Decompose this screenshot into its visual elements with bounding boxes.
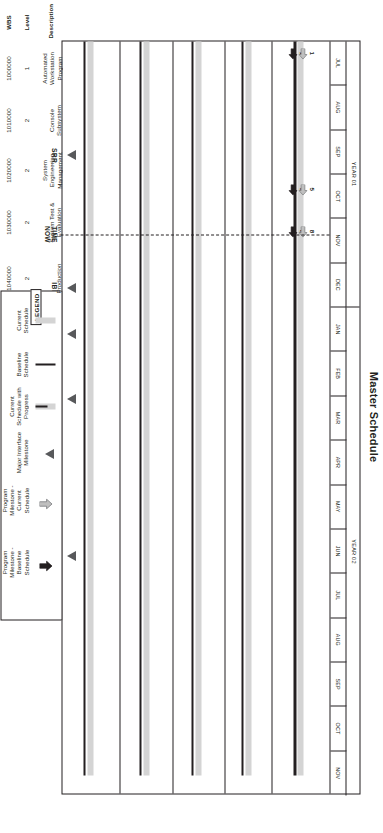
month-header-sep-14: SEP	[330, 662, 346, 706]
year-header-2: YEAR 02	[346, 307, 359, 795]
bar-current-1040000	[87, 41, 93, 775]
milestone-triangle-srr	[67, 149, 76, 159]
month-header-sep-2: SEP	[330, 130, 346, 174]
wbs-value-1000000: 1000000	[5, 52, 12, 84]
wbs-value-1010000: 1010000	[5, 104, 12, 136]
legend-label-1: Baseline Schedule	[15, 341, 29, 387]
month-header-oct-15: OCT	[330, 706, 346, 750]
baseline-schedule-swatch	[35, 363, 55, 365]
milestone-triangle-ssr	[67, 550, 76, 560]
wbs-value-1040000: 1040000	[5, 262, 12, 294]
program-milestone-baseline-icon	[36, 559, 54, 572]
gantt-rows: 115588 SRRIBRPDREPASSR TIME NOW	[62, 41, 330, 793]
month-header-jan-6: JAN	[330, 307, 346, 351]
wbs-level-1040000: 2	[23, 262, 30, 294]
wbs-value-1030000: 1030000	[5, 206, 12, 238]
month-header-aug-13: AUG	[330, 618, 346, 662]
bar-current-1000000	[297, 41, 303, 775]
program-milestone-baseline-8	[288, 226, 297, 237]
bar-baseline-1030000	[139, 41, 141, 775]
month-header-aug-1: AUG	[330, 85, 346, 129]
wbs-description-1000000: Automated Workstation Program	[40, 46, 62, 90]
month-header-apr-9: APR	[330, 440, 346, 484]
legend-label-0: Current Schedule	[15, 297, 29, 343]
bar-baseline-1000000	[293, 41, 295, 775]
wbs-description-1030000: System Test & Evaluation	[47, 200, 62, 244]
bar-baseline-1010000	[241, 41, 243, 775]
bar-current-1010000	[245, 41, 251, 775]
page-title: Master Schedule	[367, 0, 379, 833]
year-header-1: YEAR 01	[346, 41, 359, 307]
legend-box: LEGEND Current ScheduleBaseline Schedule…	[0, 290, 62, 620]
wbs-level-1000000: 1	[23, 52, 30, 84]
program-milestone-current-icon	[36, 497, 54, 510]
month-header-nov-4: NOV	[330, 218, 346, 262]
program-milestone-baseline-1	[288, 48, 297, 59]
milestone-triangle-epa	[67, 393, 76, 403]
month-header-may-10: MAY	[330, 485, 346, 529]
master-schedule-canvas: Master Schedule YEAR 01YEAR 02 JULAUGSEP…	[0, 0, 383, 833]
program-milestone-number-current-8: 8	[308, 229, 315, 232]
major-interface-milestone-icon	[44, 449, 54, 458]
wbs-header-description: Description	[47, 6, 54, 38]
bar-baseline-1040000	[83, 41, 85, 775]
program-milestone-current-8	[298, 226, 307, 237]
month-header-feb-7: FEB	[330, 351, 346, 395]
gantt-plot-area: YEAR 01YEAR 02 JULAUGSEPOCTNOVDECJANFEBM…	[61, 40, 360, 794]
program-milestone-current-1	[298, 48, 307, 59]
wbs-level-1030000: 2	[23, 206, 30, 238]
progress-fill	[35, 405, 47, 407]
legend-label-4: Program Milestone - Current Schedule	[0, 477, 29, 523]
program-milestone-number-current-1: 1	[308, 51, 315, 54]
wbs-value-1020000: 1020000	[5, 154, 12, 186]
wbs-description-1020000: System Engineering Management	[40, 148, 62, 192]
wbs-level-1010000: 2	[23, 104, 30, 136]
month-header-mar-8: MAR	[330, 396, 346, 440]
milestone-triangle-pdr	[67, 329, 76, 339]
time-now-line	[60, 234, 329, 235]
wbs-level-1020000: 2	[23, 154, 30, 186]
wbs-description-1010000: Console Subsystem	[47, 98, 62, 142]
month-header-jun-11: JUN	[330, 529, 346, 573]
month-header-jul-0: JUL	[330, 41, 346, 85]
legend-label-3: Major Interface Milestone	[15, 429, 29, 475]
legend-label-2: Current Schedule with Progress	[7, 383, 29, 429]
month-header-dec-5: DEC	[330, 263, 346, 307]
program-milestone-current-5	[298, 184, 307, 195]
bar-current-1030000	[143, 41, 149, 775]
current-schedule-swatch	[35, 317, 55, 323]
bar-current-1020000	[195, 41, 201, 775]
wbs-header-level: Level	[23, 6, 30, 38]
month-header-jul-12: JUL	[330, 573, 346, 617]
program-milestone-baseline-5	[288, 184, 297, 195]
bar-baseline-1020000	[191, 41, 193, 775]
wbs-description-1040000: Production	[55, 256, 62, 300]
program-milestone-number-current-5: 5	[308, 187, 315, 190]
wbs-header-wbs: WBS	[5, 6, 12, 38]
milestone-triangle-ibr	[67, 282, 76, 292]
month-header-nov-16: NOV	[330, 751, 346, 795]
current-schedule-progress-swatch	[35, 403, 55, 409]
legend-label-5: Program Milestone - Baseline Schedule	[0, 539, 29, 585]
month-header-oct-3: OCT	[330, 174, 346, 218]
